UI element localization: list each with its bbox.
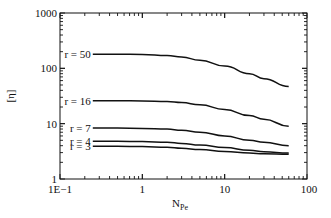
series-line [93, 101, 289, 127]
series-label: r = 7 [70, 122, 91, 134]
series-label: r = 16 [64, 95, 91, 107]
x-axis-label-main: N [172, 197, 180, 209]
x-tick-label: 100 [301, 183, 318, 195]
x-axis-label: NPe [172, 197, 188, 212]
series-line [93, 54, 289, 86]
series-labels: r = 50r = 16r = 7r = 4r = 3 [64, 48, 91, 152]
x-tick-label: 10 [219, 183, 231, 195]
x-tick-label: 1 [140, 183, 146, 195]
chart: 1E−11101001101001000 r = 50r = 16r = 7r … [0, 0, 331, 218]
series-line [93, 128, 289, 146]
y-tick-label: 1000 [35, 7, 58, 19]
series-line [93, 146, 289, 154]
series-label: r = 50 [64, 48, 91, 60]
series-curves [93, 54, 289, 154]
y-tick-label: 10 [46, 118, 58, 130]
series-label: r = 3 [70, 140, 91, 152]
series-line [93, 141, 289, 153]
y-axis-label: [η] [4, 89, 16, 102]
x-axis-label-subscript: Pe [180, 203, 188, 212]
y-tick-label: 1 [52, 173, 58, 185]
y-tick-label: 100 [41, 62, 58, 74]
